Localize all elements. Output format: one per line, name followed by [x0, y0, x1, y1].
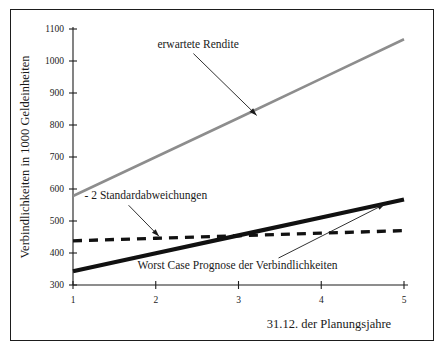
annotation-label-expected-return: erwartete Rendite	[157, 38, 238, 50]
y-axis-tick-label-900: 900	[50, 88, 65, 98]
chart-canvas: 300400500600700800900100011001234531.12.…	[11, 10, 433, 340]
y-axis-tick-label-300: 300	[50, 280, 65, 290]
y-axis-tick-label-1000: 1000	[45, 56, 64, 66]
x-axis-tick-label-1: 1	[71, 295, 76, 305]
x-axis-tick-label-3: 3	[236, 295, 241, 305]
y-axis-title: Verbindlichkeiten in 1000 Geldeinheiten	[18, 55, 32, 259]
series-line-expected-return	[73, 39, 404, 196]
y-axis-tick-label-400: 400	[50, 248, 65, 258]
y-axis-tick-label-500: 500	[50, 216, 65, 226]
x-axis-tick-label-4: 4	[319, 295, 324, 305]
series-line-two-std-dev	[73, 231, 404, 241]
y-axis-tick-label-700: 700	[50, 152, 65, 162]
x-axis-tick-label-2: 2	[153, 295, 158, 305]
annotation-label-worst-case: Worst Case Prognose der Verbindlichkeite…	[138, 259, 338, 272]
y-axis-tick-label-600: 600	[50, 184, 65, 194]
annotation-label-two-std-dev: - 2 Standardabweichungen	[85, 189, 208, 202]
annotation-expected-return-leader	[193, 54, 256, 116]
figure-root: 300400500600700800900100011001234531.12.…	[0, 0, 445, 361]
y-axis-tick-label-800: 800	[50, 120, 65, 130]
y-axis-tick-label-1100: 1100	[45, 24, 64, 34]
x-axis-tick-label-5: 5	[402, 295, 407, 305]
chart-border-frame: 300400500600700800900100011001234531.12.…	[10, 9, 434, 341]
x-axis-title: 31.12. der Planungsjahre	[267, 317, 392, 331]
